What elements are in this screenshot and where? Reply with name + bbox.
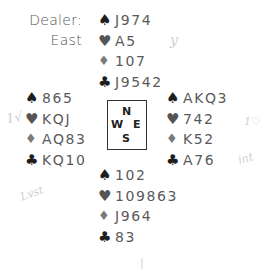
south-diamonds: J964 xyxy=(115,206,152,227)
pencil-mark-east-1: 1♡ xyxy=(244,115,261,128)
south-clubs: 83 xyxy=(115,227,136,248)
south-clubs-row: ♣83 xyxy=(98,227,178,248)
pencil-mark-south: | xyxy=(140,256,144,269)
east-hand: ♠AKQ3 ♥742 ♦K52 ♣A76 xyxy=(166,88,228,170)
west-hand: ♠865 ♥KQJ ♦AQ83 ♣KQ10 xyxy=(25,88,87,170)
spade-icon: ♠ xyxy=(166,88,183,109)
east-diamonds-row: ♦K52 xyxy=(166,129,228,150)
club-icon: ♣ xyxy=(98,72,115,93)
north-hand: ♠J974 ♥A5 ♦107 ♣J9542 xyxy=(98,10,163,92)
north-hearts: A5 xyxy=(115,31,137,52)
east-spades-row: ♠AKQ3 xyxy=(166,88,228,109)
spade-icon: ♠ xyxy=(98,10,115,31)
heart-icon: ♥ xyxy=(98,31,115,52)
diamond-icon: ♦ xyxy=(98,206,115,227)
diamond-icon: ♦ xyxy=(98,51,115,72)
spade-icon: ♠ xyxy=(98,165,115,186)
compass-east: E xyxy=(133,118,141,131)
pencil-mark-west: 1√ xyxy=(5,109,24,127)
dealer-info: Dealer: East xyxy=(2,10,82,50)
diamond-icon: ♦ xyxy=(25,129,42,150)
west-hearts-row: ♥KQJ xyxy=(25,109,87,130)
west-clubs-row: ♣KQ10 xyxy=(25,150,87,171)
club-icon: ♣ xyxy=(98,227,115,248)
dealer-value: East xyxy=(2,30,82,50)
west-spades-row: ♠865 xyxy=(25,88,87,109)
compass-south: S xyxy=(122,132,130,145)
north-spades: J974 xyxy=(115,10,152,31)
north-diamonds-row: ♦107 xyxy=(98,51,163,72)
west-spades: 865 xyxy=(42,88,74,109)
pencil-mark-west-low: Lvst xyxy=(18,183,45,203)
pencil-mark-north: y xyxy=(170,32,178,48)
south-hearts: 109863 xyxy=(115,186,178,207)
north-diamonds: 107 xyxy=(115,51,147,72)
pencil-mark-east-2: int xyxy=(237,150,255,166)
north-hearts-row: ♥A5 xyxy=(98,31,163,52)
west-hearts: KQJ xyxy=(42,109,71,130)
west-diamonds-row: ♦AQ83 xyxy=(25,129,87,150)
east-diamonds: K52 xyxy=(183,129,215,150)
diamond-icon: ♦ xyxy=(166,129,183,150)
compass-north: N xyxy=(122,105,131,118)
east-clubs: A76 xyxy=(183,150,215,171)
east-spades: AKQ3 xyxy=(183,88,228,109)
north-clubs-row: ♣J9542 xyxy=(98,72,163,93)
east-hearts: 742 xyxy=(183,109,215,130)
south-hand: ♠102 ♥109863 ♦J964 ♣83 xyxy=(98,165,178,247)
north-spades-row: ♠J974 xyxy=(98,10,163,31)
south-spades-row: ♠102 xyxy=(98,165,178,186)
heart-icon: ♥ xyxy=(25,109,42,130)
compass-west: W xyxy=(111,118,123,131)
west-clubs: KQ10 xyxy=(42,150,86,171)
heart-icon: ♥ xyxy=(166,109,183,130)
south-diamonds-row: ♦J964 xyxy=(98,206,178,227)
heart-icon: ♥ xyxy=(98,186,115,207)
east-hearts-row: ♥742 xyxy=(166,109,228,130)
dealer-label: Dealer: xyxy=(2,10,82,30)
spade-icon: ♠ xyxy=(25,88,42,109)
club-icon: ♣ xyxy=(25,150,42,171)
west-diamonds: AQ83 xyxy=(42,129,87,150)
south-hearts-row: ♥109863 xyxy=(98,186,178,207)
compass-box: N W E S xyxy=(107,100,147,150)
north-clubs: J9542 xyxy=(115,72,163,93)
south-spades: 102 xyxy=(115,165,147,186)
